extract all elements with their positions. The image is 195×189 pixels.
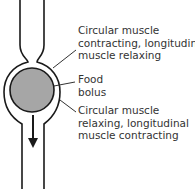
- label-top: Circular muscle contracting, longitudina…: [78, 24, 195, 62]
- down-arrow-icon: [28, 138, 38, 148]
- leader-middle: [54, 82, 75, 86]
- leader-bottom: [60, 100, 76, 112]
- label-bottom: Circular muscle relaxing, longitudinal m…: [78, 104, 189, 142]
- label-middle: Food bolus: [78, 73, 106, 98]
- leader-top: [53, 50, 76, 68]
- food-bolus-circle: [10, 68, 54, 112]
